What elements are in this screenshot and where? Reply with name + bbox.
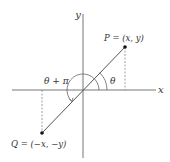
y-axis-label: y xyxy=(74,9,81,20)
theta-plus-pi-label: θ + π xyxy=(44,76,70,86)
polar-diagram: y x P = (x, y) Q = (−x, −y) θ θ + π xyxy=(0,0,170,162)
x-axis-label: x xyxy=(158,84,164,95)
point-p xyxy=(123,45,127,49)
point-p-label: P = (x, y) xyxy=(103,33,144,43)
theta-arc xyxy=(100,73,107,90)
theta-label: θ xyxy=(110,76,116,86)
point-q xyxy=(40,131,44,135)
point-q-label: Q = (−x, −y) xyxy=(11,139,66,149)
